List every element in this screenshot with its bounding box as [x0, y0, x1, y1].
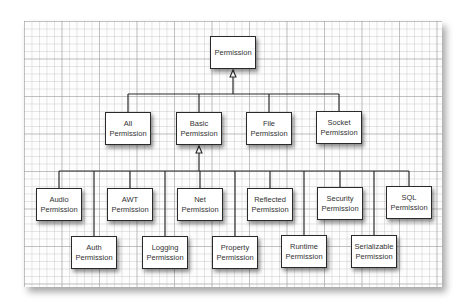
sql-permission-box: SQLPermission — [386, 186, 432, 219]
runtime-permission-label-line: Runtime — [285, 242, 322, 252]
security-permission-label-line: Security — [321, 194, 358, 204]
sql-permission-label-line: Permission — [390, 203, 427, 213]
sql-permission-label-line: SQL — [390, 193, 427, 203]
permission-box: Permission — [210, 36, 256, 69]
audio-permission-label-line: Audio — [40, 195, 77, 205]
logging-permission-box: LoggingPermission — [142, 236, 188, 269]
reflected-permission-label-line: Reflected — [251, 195, 288, 205]
basic-permission-label-line: Permission — [180, 129, 217, 139]
logging-permission-label-line: Logging — [146, 243, 183, 253]
awt-permission-label-line: AWT — [111, 195, 148, 205]
file-permission-label-line: File — [250, 119, 287, 129]
socket-permission-label-line: Permission — [320, 128, 357, 138]
runtime-permission-label-line: Permission — [285, 252, 322, 262]
serializable-permission-label-line: Serializable — [355, 242, 394, 252]
property-permission-label-line: Permission — [216, 253, 253, 263]
reflected-permission-label-line: Permission — [251, 205, 288, 215]
file-permission-label-line: Permission — [250, 129, 287, 139]
basic-permission-label-line: Basic — [180, 119, 217, 129]
net-permission-label-line: Net — [181, 195, 218, 205]
socket-permission-box: SocketPermission — [316, 111, 362, 144]
socket-permission-label-line: Socket — [320, 118, 357, 128]
serializable-permission-label-line: Permission — [355, 252, 394, 262]
logging-permission-label-line: Permission — [146, 253, 183, 263]
audio-permission-box: AudioPermission — [36, 188, 82, 221]
all-permission-label-line: All — [109, 119, 146, 129]
auth-permission-label-line: Permission — [75, 253, 112, 263]
all-permission-box: AllPermission — [105, 112, 151, 145]
serializable-permission-box: SerializablePermission — [351, 235, 397, 268]
basic-permission-box: BasicPermission — [176, 112, 222, 145]
net-permission-label-line: Permission — [181, 205, 218, 215]
awt-permission-label-line: Permission — [111, 205, 148, 215]
property-permission-label-line: Property — [216, 243, 253, 253]
inheritance-arrow-icon — [196, 146, 202, 153]
auth-permission-box: AuthPermission — [71, 236, 117, 269]
inheritance-arrow-icon — [230, 70, 236, 77]
awt-permission-box: AWTPermission — [107, 188, 153, 221]
property-permission-box: PropertyPermission — [212, 236, 258, 269]
file-permission-box: FilePermission — [246, 112, 292, 145]
security-permission-box: SecurityPermission — [317, 187, 363, 220]
security-permission-label-line: Permission — [321, 204, 358, 214]
reflected-permission-box: ReflectedPermission — [247, 188, 293, 221]
permission-label-line: Permission — [214, 48, 251, 58]
auth-permission-label-line: Auth — [75, 243, 112, 253]
audio-permission-label-line: Permission — [40, 205, 77, 215]
net-permission-box: NetPermission — [177, 188, 223, 221]
all-permission-label-line: Permission — [109, 129, 146, 139]
runtime-permission-box: RuntimePermission — [281, 235, 327, 268]
